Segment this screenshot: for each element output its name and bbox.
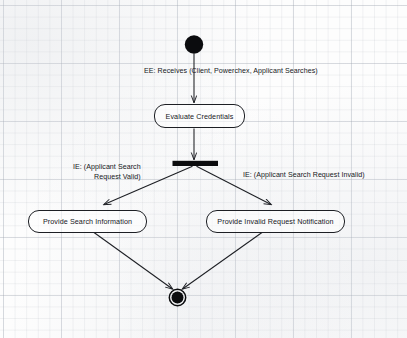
final-node-inner-circle: [172, 292, 184, 304]
activity-label-evaluate-credentials: Evaluate Credentials: [166, 112, 234, 121]
edge-label-receives-applicant-searches: EE: Receives (Client, Powerchex, Applica…: [144, 67, 318, 77]
edge-label-applicant-search-request-valid: IE: (Applicant Search Request Valid): [73, 163, 141, 182]
activity-diagram-canvas: Evaluate Credentials Provide Search Info…: [0, 0, 407, 338]
activity-node-provide-search-information[interactable]: Provide Search Information: [28, 210, 147, 233]
fork-bar: [173, 161, 219, 166]
activity-node-provide-invalid-request-notification[interactable]: Provide Invalid Request Notification: [206, 210, 345, 233]
edge-label-valid-line-2: Request Valid): [73, 173, 141, 183]
initial-node-circle: [185, 35, 203, 53]
activity-node-evaluate-credentials[interactable]: Evaluate Credentials: [154, 104, 245, 128]
edge-label-applicant-search-request-invalid: IE: (Applicant Search Request Invalid): [243, 171, 365, 181]
diagram-connectors-layer: [0, 0, 407, 338]
edge-search-information-to-end: [94, 233, 173, 290]
edge-label-valid-line-1: IE: (Applicant Search: [73, 163, 141, 173]
edge-invalid-notification-to-end: [183, 233, 263, 290]
activity-label-provide-search-information: Provide Search Information: [43, 217, 132, 226]
activity-label-provide-invalid-request-notification: Provide Invalid Request Notification: [217, 217, 333, 226]
